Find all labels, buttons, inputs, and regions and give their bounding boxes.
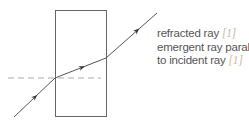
refracted-ray	[55, 58, 106, 78]
label-parallel: to incident ray [1]	[157, 54, 249, 68]
label-text: refracted ray	[157, 27, 222, 39]
mark-indicator: [1]	[229, 54, 243, 66]
label-emergent-ray: emergent ray parallel	[157, 41, 249, 55]
answer-labels: refracted ray [1] emergent ray parallel …	[157, 27, 249, 68]
label-text: to incident ray	[157, 54, 229, 66]
label-text: emergent ray parallel	[157, 41, 249, 53]
glass-block	[56, 11, 107, 117]
incident-ray	[14, 78, 55, 117]
emergent-ray	[106, 13, 157, 58]
label-refracted-ray: refracted ray [1]	[157, 27, 249, 41]
mark-indicator: [1]	[222, 27, 236, 39]
